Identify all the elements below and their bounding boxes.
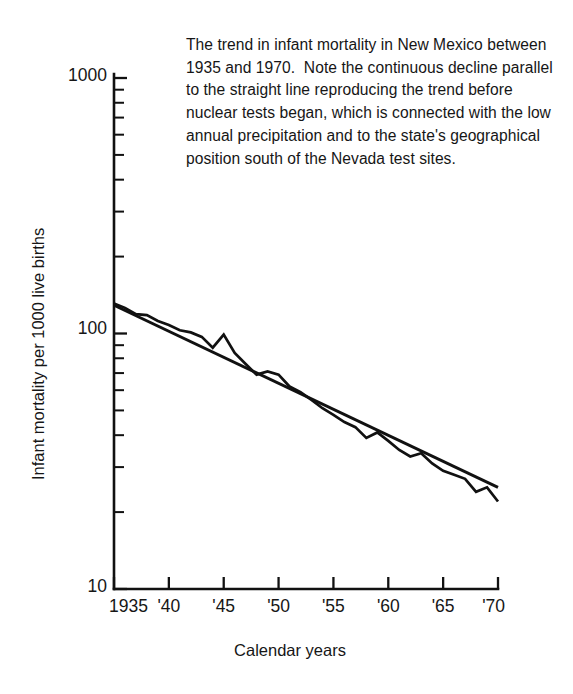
x-axis-title: Calendar years bbox=[234, 641, 346, 659]
x-axis-tick-label: '40 bbox=[157, 596, 180, 616]
y-axis-ticks bbox=[114, 78, 127, 589]
y-axis-title: Infant mortality per 1000 live births bbox=[29, 228, 47, 480]
x-axis-tick-label: '50 bbox=[267, 596, 290, 616]
x-axis-tick-label: '70 bbox=[482, 596, 505, 616]
x-axis-tick-label: '55 bbox=[322, 596, 345, 616]
infant-mortality-log-chart: Infant mortality per 1000 live births 10… bbox=[0, 0, 573, 694]
figure-root: The trend in infant mortality in New Mex… bbox=[0, 0, 573, 694]
x-axis-tick-label: '60 bbox=[377, 596, 400, 616]
x-axis-tick-label: 1935 bbox=[109, 596, 148, 616]
y-tick-label-100: 100 bbox=[78, 318, 107, 338]
y-tick-label-1000: 1000 bbox=[68, 65, 107, 85]
x-axis-ticks bbox=[114, 577, 498, 589]
y-tick-label-10: 10 bbox=[88, 576, 108, 596]
x-axis-tick-labels: 1935'40'45'50'55'60'65'70 bbox=[109, 596, 505, 616]
x-axis-tick-label: '45 bbox=[212, 596, 235, 616]
x-axis-tick-label: '65 bbox=[432, 596, 455, 616]
